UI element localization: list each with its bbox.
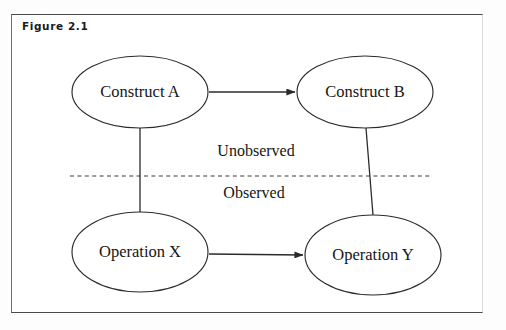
region-label-unobserved: Unobserved [217, 142, 294, 159]
construct-a-label: Construct A [100, 82, 179, 101]
node-construct-a[interactable]: Construct A [72, 56, 208, 128]
node-operation-y[interactable]: Operation Y [305, 215, 441, 295]
edge-construct-b-to-operation-y [366, 128, 373, 215]
diagram-canvas: Construct A Construct B Operation X Oper… [0, 0, 506, 330]
operation-y-label: Operation Y [332, 245, 413, 264]
operation-x-label: Operation X [99, 242, 181, 261]
page-canvas: Figure 2.1 Construct A Construct B [0, 0, 506, 330]
node-operation-x[interactable]: Operation X [72, 212, 208, 292]
edge-operation-x-to-operation-y [209, 254, 303, 255]
node-construct-b[interactable]: Construct B [297, 56, 433, 128]
construct-b-label: Construct B [325, 82, 404, 101]
region-label-observed: Observed [223, 184, 284, 201]
